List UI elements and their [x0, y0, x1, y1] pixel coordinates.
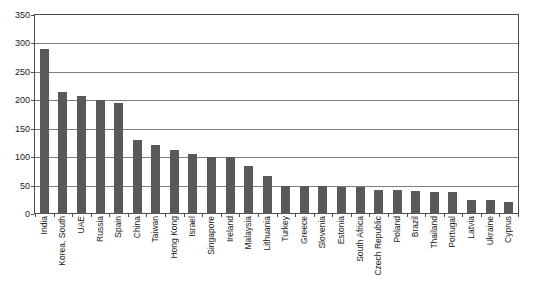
bar [504, 202, 513, 215]
x-tick-mark [165, 214, 166, 217]
x-tick-label: Brazil [410, 216, 421, 237]
x-tick-mark [388, 214, 389, 217]
y-tick-label-50: 50 [0, 182, 30, 191]
bar [40, 49, 49, 214]
x-tick-label: Israel [187, 216, 198, 237]
x-tick-mark [351, 214, 352, 217]
x-tick-mark [518, 214, 519, 217]
bar [188, 154, 197, 214]
x-tick-mark [239, 214, 240, 217]
x-tick-mark [184, 214, 185, 217]
x-tick-mark [35, 214, 36, 217]
y-tick-label-0: 0 [0, 210, 30, 219]
x-tick-label: Slovenia [317, 216, 328, 249]
x-tick-mark [54, 214, 55, 217]
bar [96, 100, 105, 214]
y-axis: 050100150200250300350 [0, 14, 30, 215]
y-tick-label-350: 350 [0, 11, 30, 20]
x-tick-mark [369, 214, 370, 217]
x-tick-label: Taiwan [150, 216, 161, 242]
bar [263, 176, 272, 214]
bar [356, 187, 365, 214]
x-tick-label: China [132, 216, 143, 238]
bar [430, 192, 439, 214]
y-tick-label-300: 300 [0, 39, 30, 48]
bar [133, 140, 142, 214]
x-tick-mark [277, 214, 278, 217]
x-tick-mark [462, 214, 463, 217]
x-tick-label: Cyprus [503, 216, 514, 243]
y-tick-label-250: 250 [0, 68, 30, 77]
x-tick-mark [444, 214, 445, 217]
x-axis: IndiaKorea, SouthUAERussiaSpainChinaTaiw… [35, 216, 518, 293]
x-tick-label: Portugal [447, 216, 458, 248]
y-tick-label-100: 100 [0, 153, 30, 162]
bar [393, 190, 402, 214]
y-tick-label-200: 200 [0, 96, 30, 105]
bar [207, 157, 216, 214]
x-tick-mark [295, 214, 296, 217]
bar [244, 166, 253, 214]
x-tick-mark [128, 214, 129, 217]
x-tick-label: Russia [95, 216, 106, 242]
x-tick-label: Czech Republic [373, 216, 384, 276]
bar [300, 186, 309, 214]
x-tick-mark [202, 214, 203, 217]
bar [318, 186, 327, 214]
bar [281, 186, 290, 214]
bar [411, 191, 420, 214]
x-tick-mark [109, 214, 110, 217]
y-tick-mark-0 [31, 214, 34, 215]
x-tick-mark [332, 214, 333, 217]
x-tick-label: Singapore [206, 216, 217, 255]
bar-chart: 050100150200250300350 IndiaKorea, SouthU… [0, 0, 541, 293]
x-tick-label: Thailand [429, 216, 440, 249]
x-tick-mark [499, 214, 500, 217]
bars-layer [35, 15, 518, 214]
bar [226, 157, 235, 214]
bar [77, 96, 86, 214]
x-tick-mark [258, 214, 259, 217]
bar [337, 187, 346, 214]
x-tick-mark [481, 214, 482, 217]
x-tick-label: South Africa [355, 216, 366, 262]
bar [448, 192, 457, 214]
x-tick-label: UAE [76, 216, 87, 233]
bar [114, 103, 123, 214]
x-tick-label: Lithuania [262, 216, 273, 251]
x-tick-mark [91, 214, 92, 217]
bar [486, 200, 495, 214]
bar [374, 190, 383, 214]
x-tick-mark [407, 214, 408, 217]
x-tick-mark [72, 214, 73, 217]
bar [151, 145, 160, 214]
bar [170, 150, 179, 214]
x-tick-label: Poland [392, 216, 403, 242]
x-tick-label: Latvia [466, 216, 477, 239]
x-tick-label: Korea, South [57, 216, 68, 266]
x-tick-label: Spain [113, 216, 124, 238]
x-tick-mark [314, 214, 315, 217]
x-tick-label: Estonia [336, 216, 347, 244]
x-tick-label: Malaysia [243, 216, 254, 250]
x-tick-mark [221, 214, 222, 217]
x-tick-label: Turkey [280, 216, 291, 242]
x-tick-mark [146, 214, 147, 217]
x-tick-label: Ukraine [485, 216, 496, 245]
y-tick-label-150: 150 [0, 125, 30, 134]
x-tick-label: Hong Kong [169, 216, 180, 259]
x-tick-mark [425, 214, 426, 217]
bar [58, 92, 67, 214]
x-tick-label: India [39, 216, 50, 234]
x-tick-label: Ireland [225, 216, 236, 242]
bar [467, 200, 476, 214]
x-tick-label: Greece [299, 216, 310, 244]
